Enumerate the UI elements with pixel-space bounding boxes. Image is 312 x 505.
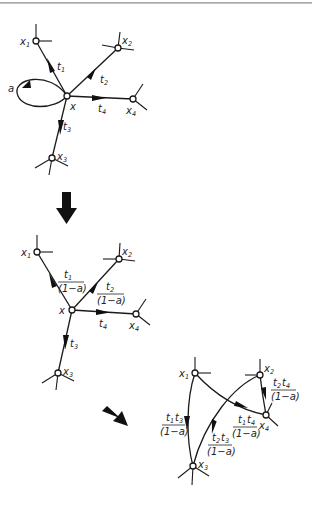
label-x: x (58, 305, 65, 316)
label-t3: t3 (63, 121, 71, 134)
svg-text:(1−a): (1−a) (97, 295, 126, 306)
label-t4: t4 (98, 103, 106, 116)
node-x1 (192, 370, 198, 376)
svg-text:(1−a): (1−a) (207, 446, 236, 457)
svg-text:(1−a): (1−a) (160, 426, 189, 437)
node-x3 (190, 463, 196, 469)
node-x2 (115, 45, 121, 51)
node-x (69, 307, 75, 313)
signal-flow-diagram: x1 x2 x x4 x3 a t1 t2 t3 t4 (0, 0, 312, 505)
edge-t1t4 (195, 373, 266, 415)
arrow-t2 (89, 282, 98, 294)
node-x3 (55, 370, 61, 376)
label-t1: t1 (57, 61, 65, 74)
node-x3 (49, 155, 55, 161)
label-t1t4-over-1-a: t1t4 (1−a) (232, 414, 261, 439)
arrow-t4 (96, 309, 110, 315)
arrow-t1 (47, 58, 55, 73)
label-x4: x4 (128, 320, 139, 333)
arrow-t2 (87, 68, 96, 80)
svg-text:t2t4: t2t4 (273, 377, 290, 390)
arrow-t1t4 (234, 401, 248, 408)
svg-text:(1−a): (1−a) (271, 391, 300, 402)
stage-3-graph: x1 x2 x4 x3 t1t3 (1−a) t2t3 (1−a) t1t4 (… (160, 357, 300, 485)
arrow-t1 (49, 273, 57, 288)
arrow-t4 (92, 95, 106, 101)
label-x1: x1 (19, 36, 30, 49)
label-x1: x1 (178, 368, 189, 381)
label-x1: x1 (20, 247, 31, 260)
label-x2: x2 (263, 363, 274, 376)
label-t2-over-1-a: t2 (1−a) (97, 281, 126, 306)
edge-t1-over-1-a (37, 252, 72, 310)
svg-text:t1t4: t1t4 (238, 414, 255, 427)
node-x4 (133, 311, 139, 317)
stage-2-graph: x1 x2 x x4 x3 t1 (1−a) t2 (1−a) t3 t4 (20, 235, 150, 390)
svg-text:t2t3: t2t3 (212, 432, 229, 445)
label-x2: x2 (121, 246, 132, 259)
label-x: x (69, 101, 76, 112)
label-self-loop-a: a (8, 83, 14, 94)
node-x (64, 93, 70, 99)
label-t3: t3 (70, 338, 78, 351)
stage-1-graph: x1 x2 x x4 x3 a t1 t2 t3 t4 (8, 24, 147, 175)
svg-text:(1−a): (1−a) (232, 428, 261, 439)
node-x1 (33, 38, 39, 44)
node-x2 (257, 372, 263, 378)
svg-text:t2: t2 (106, 281, 114, 294)
svg-text:(1−a): (1−a) (58, 283, 87, 294)
label-t1-over-1-a: t1 (1−a) (58, 269, 87, 294)
diagonal-arrow-icon (102, 406, 128, 426)
label-x3: x3 (62, 366, 73, 379)
label-x3: x3 (56, 151, 67, 164)
label-x2: x2 (121, 35, 132, 48)
label-x4: x4 (125, 105, 136, 118)
svg-text:t1t3: t1t3 (166, 412, 183, 425)
node-x4 (263, 412, 269, 418)
label-t2t4-over-1-a: t2t4 (1−a) (271, 377, 300, 402)
svg-text:t1: t1 (64, 269, 72, 282)
label-t4: t4 (99, 318, 107, 331)
label-t2: t2 (100, 74, 108, 87)
node-x4 (130, 96, 136, 102)
node-x1 (34, 249, 40, 255)
down-arrow-icon (56, 192, 77, 224)
label-t1t3-over-1-a: t1t3 (1−a) (160, 412, 189, 437)
